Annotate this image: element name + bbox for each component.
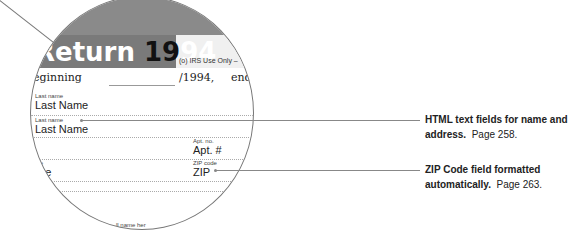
- date-field[interactable]: [109, 79, 175, 86]
- header-band: [31, 0, 253, 35]
- last-name-field[interactable]: Last Name: [35, 99, 88, 111]
- last-name-field-2[interactable]: Last Name: [35, 123, 88, 135]
- divider: [31, 181, 253, 182]
- divider: [31, 191, 253, 192]
- beginning-label: eginning: [33, 71, 82, 84]
- year-suffix: /1994,: [179, 71, 214, 84]
- callout-line-1: [82, 120, 420, 121]
- irs-use-only: (o) IRS Use Only –: [179, 57, 238, 64]
- divider: [31, 115, 253, 116]
- divider: [31, 137, 253, 138]
- footer-fragment: ll name her: [116, 222, 146, 228]
- zip-field[interactable]: ZIP: [193, 166, 210, 178]
- callout-line-2: [216, 170, 420, 171]
- callout-zip: ZIP Code field formatted automatically. …: [425, 162, 575, 192]
- callout-name-address: HTML text fields for name and address. P…: [425, 112, 575, 142]
- divider: [31, 159, 253, 160]
- magnifier-circle: Return 1994 (o) IRS Use Only – eginning …: [30, 0, 254, 230]
- state-field[interactable]: tate: [33, 166, 51, 178]
- apt-field[interactable]: Apt. #: [193, 144, 222, 156]
- ending-label: ending: [231, 71, 254, 84]
